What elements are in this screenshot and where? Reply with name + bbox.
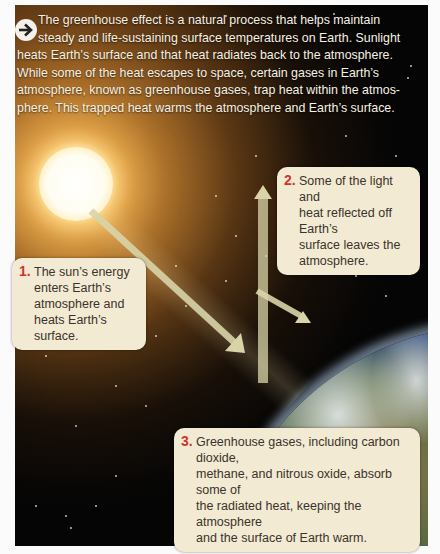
radiated-heat-arrow-icon <box>253 287 315 329</box>
callout-line: the radiated heat, keeping the atmospher… <box>196 498 412 530</box>
intro-paragraph: The greenhouse effect is a natural proce… <box>17 12 417 117</box>
callout-line: Greenhouse gases, including carbon dioxi… <box>196 434 412 466</box>
intro-line: steady and life-sustaining surface tempe… <box>17 30 417 48</box>
callout-line: heats Earth’s surface. <box>34 312 138 344</box>
callout-1-sun-energy: 1. The sun’s energy enters Earth’s atmos… <box>12 258 146 350</box>
callout-number: 3. <box>181 433 193 449</box>
callout-line: surface leaves the <box>299 237 412 253</box>
callout-number: 1. <box>19 263 31 279</box>
callout-line: atmosphere and <box>34 296 138 312</box>
intro-line: heats Earth’s surface and that heat radi… <box>17 47 417 65</box>
callout-line: Some of the light and <box>299 173 412 205</box>
intro-line: phere. This trapped heat warms the atmos… <box>17 100 417 118</box>
intro-line: atmosphere, known as greenhouse gases, t… <box>17 82 417 100</box>
callout-3-greenhouse-gases: 3. Greenhouse gases, including carbon di… <box>174 428 420 552</box>
callout-number: 2. <box>284 172 296 188</box>
callout-line: heat reflected off Earth’s <box>299 205 412 237</box>
intro-line: While some of the heat escapes to space,… <box>17 65 417 83</box>
callout-line: atmosphere. <box>299 253 412 269</box>
callout-2-reflected-light: 2. Some of the light and heat reflected … <box>277 167 420 275</box>
callout-line: methane, and nitrous oxide, absorb some … <box>196 466 412 498</box>
reflected-energy-arrow-icon <box>253 183 273 383</box>
callout-line: enters Earth’s <box>34 280 138 296</box>
intro-line: The greenhouse effect is a natural proce… <box>17 12 417 30</box>
callout-line: and the surface of Earth warm. <box>196 530 412 546</box>
callout-line: The sun’s energy <box>34 264 138 280</box>
